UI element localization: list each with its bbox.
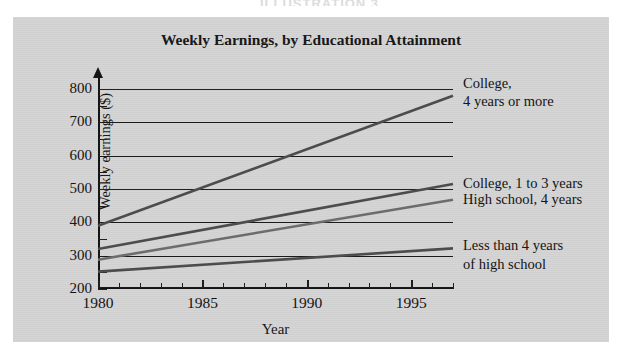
x-tick-minor: [244, 283, 245, 289]
y-axis-arrow-icon: [93, 67, 103, 78]
x-tick-major: [411, 280, 413, 289]
legend-entry-4: Less than 4 yearsof high school: [463, 236, 563, 273]
x-tick-label: 1990: [291, 294, 322, 312]
figure-panel: Weekly Earnings, by Educational Attainme…: [13, 17, 609, 342]
y-tick-label: 400: [70, 213, 93, 230]
y-tick-label: 700: [70, 113, 93, 130]
x-tick-minor: [265, 283, 266, 289]
legend-label-line1: Less than 4 years: [463, 237, 563, 253]
y-tick-label: 800: [70, 80, 93, 97]
x-tick-minor: [369, 283, 370, 289]
x-tick-minor: [286, 283, 287, 289]
x-tick-label: 1985: [187, 294, 218, 312]
legend-label-line2: 4 years or more: [463, 93, 554, 109]
page-heading: ILLUSTRATION 3: [0, 0, 639, 6]
plot-area: Weekly earnings ($) 80070060050040030020…: [98, 89, 453, 289]
legend-entry-1: College,4 years or more: [463, 74, 554, 111]
y-tick-label: 300: [70, 247, 93, 264]
x-axis-title: Year: [98, 321, 453, 338]
y-tick-label: 600: [70, 147, 93, 164]
chart-title: Weekly Earnings, by Educational Attainme…: [13, 31, 609, 49]
x-tick-minor: [182, 283, 183, 289]
x-tick-major: [98, 280, 100, 289]
x-tick-major: [307, 280, 309, 289]
legend-entry-3: High school, 4 years: [463, 190, 582, 209]
series-lines: [98, 89, 453, 289]
x-tick-minor: [328, 283, 329, 289]
x-axis-line: [98, 287, 453, 289]
x-tick-minor: [349, 283, 350, 289]
legend-label-line2: of high school: [463, 256, 546, 272]
y-minor-tick: [98, 289, 107, 290]
x-tick-label: 1995: [396, 294, 427, 312]
legend-label-line1: College, 1 to 3 years: [463, 175, 583, 191]
x-tick-major: [202, 280, 204, 289]
legend-label-line1: College,: [463, 75, 512, 91]
x-tick-minor: [390, 283, 391, 289]
series-line-2: [98, 184, 453, 249]
x-tick-minor: [119, 283, 120, 289]
x-tick-minor: [432, 283, 433, 289]
x-tick-minor: [140, 283, 141, 289]
series-line-1: [98, 96, 453, 226]
x-tick-minor: [161, 283, 162, 289]
y-tick-label: 500: [70, 180, 93, 197]
x-tick-minor: [453, 283, 454, 289]
x-tick-minor: [223, 283, 224, 289]
x-tick-label: 1980: [83, 294, 114, 312]
legend-label-line1: High school, 4 years: [463, 191, 582, 207]
